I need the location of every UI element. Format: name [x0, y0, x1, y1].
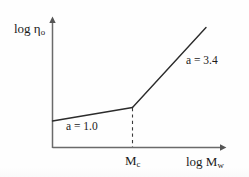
mc-tick-label: Mc [125, 154, 140, 168]
curve-segment-entangled [133, 28, 207, 108]
y-axis-label: log ηo [14, 22, 45, 36]
annotation-slope-low: a = 1.0 [66, 121, 98, 133]
annotation-slope-high: a = 3.4 [186, 55, 218, 67]
x-axis-label-subscript: w [217, 160, 223, 170]
mc-tick-label-subscript: c [137, 159, 141, 169]
y-axis-label-subscript: o [41, 27, 45, 37]
x-axis-label: log Mw [186, 155, 224, 169]
curve-segment-unentangled [53, 108, 133, 122]
viscosity-molecular-weight-chart: log ηo log Mw Mc a = 1.0 a = 3.4 [0, 0, 249, 177]
